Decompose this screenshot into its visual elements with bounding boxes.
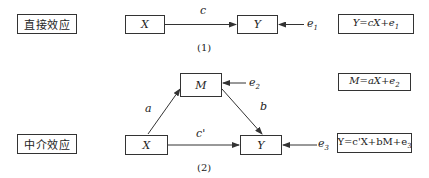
equation-y: Y=c'X+bM+e3 xyxy=(337,136,411,150)
node-y-label: Y xyxy=(257,139,264,152)
path-label-c-prime: c' xyxy=(196,127,205,140)
caption-2: (2) xyxy=(197,162,211,173)
equation-m: M=aX+e2 xyxy=(349,75,399,89)
path-label-a: a xyxy=(145,102,152,115)
direct-effect-label: 直接效应 xyxy=(24,16,70,32)
node-m: M xyxy=(180,73,222,97)
node-y-panel1: Y xyxy=(237,15,278,34)
error-label-e3: e3 xyxy=(318,137,329,152)
error-label-e1: e1 xyxy=(307,17,318,32)
node-m-label: M xyxy=(195,79,206,92)
node-x-label: X xyxy=(141,18,149,31)
arrow-m-to-y xyxy=(222,89,262,134)
node-x-label: X xyxy=(143,139,151,152)
equation-box-m: M=aX+e2 xyxy=(338,73,411,91)
equation-box-y: Y=c'X+bM+e3 xyxy=(337,133,412,153)
equation-box-1: Y=cX+e1 xyxy=(338,14,414,34)
path-label-c: c xyxy=(200,4,206,17)
node-y-panel2: Y xyxy=(240,135,282,155)
node-x-panel2: X xyxy=(125,135,168,155)
mediation-effect-label: 中介效应 xyxy=(24,136,70,152)
direct-effect-label-box: 直接效应 xyxy=(17,14,77,34)
node-x-panel1: X xyxy=(125,15,165,34)
arrow-x-to-m xyxy=(148,89,180,134)
equation-1: Y=cX+e1 xyxy=(353,17,399,31)
path-label-b: b xyxy=(260,100,267,113)
mediation-effect-label-box: 中介效应 xyxy=(17,134,77,154)
error-label-e2: e2 xyxy=(249,76,260,91)
caption-1: (1) xyxy=(197,42,211,53)
node-y-label: Y xyxy=(254,18,261,31)
